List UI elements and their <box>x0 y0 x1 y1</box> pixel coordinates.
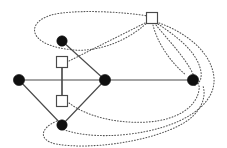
node-topright-square[interactable] <box>147 13 158 24</box>
dotted-edge-upper-square-to-topright-square <box>69 22 147 61</box>
node-left-circle[interactable] <box>13 74 24 85</box>
dotted-edge-topright-square-to-top-circle <box>35 12 150 51</box>
solid-edge-left-circle-to-bottom-circle <box>62 80 105 125</box>
node-lower-square[interactable] <box>57 96 68 107</box>
figure-root <box>0 0 227 148</box>
dotted-edge-lower-square-to-right-circle-low <box>69 80 199 122</box>
node-top-circle[interactable] <box>57 36 67 46</box>
node-upper-square[interactable] <box>57 57 68 68</box>
node-center-circle[interactable] <box>99 74 110 85</box>
solid-edge-left-circle-to-top-circle <box>62 41 105 80</box>
solid-edge-top-circle-to-center-circle <box>19 80 62 125</box>
dotted-edge-topright-square-to-right-circle-mid <box>156 25 194 76</box>
node-group <box>13 13 198 131</box>
node-right-circle[interactable] <box>187 74 198 85</box>
node-bottom-circle[interactable] <box>57 120 67 130</box>
graph-diagram <box>0 0 227 148</box>
